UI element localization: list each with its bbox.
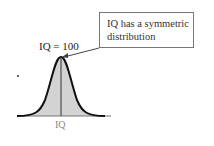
callout-line-2: distribution [107,30,193,43]
axis-label: IQ [55,119,66,130]
peak-label: IQ = 100 [39,40,79,52]
margin-mark [17,75,19,77]
callout-line-1: IQ has a symmetric [107,17,193,30]
callout-box: IQ has a symmetric distribution [99,12,194,48]
